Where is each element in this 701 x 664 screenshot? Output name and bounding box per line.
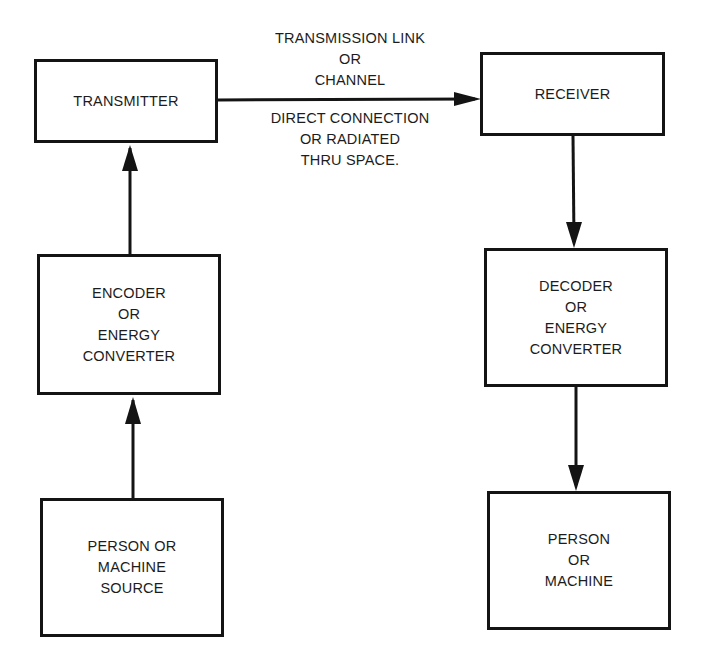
- receiver-block: RECEIVER: [480, 52, 665, 136]
- encoder-label-line-2: OR: [118, 304, 140, 325]
- transmitter-block: TRANSMITTER: [34, 59, 218, 143]
- decoder-label-line-3: ENERGY: [545, 318, 607, 339]
- source-label-line-3: SOURCE: [100, 578, 163, 599]
- link-above-line-1: TRANSMISSION LINK: [250, 28, 450, 49]
- connection-type-label: DIRECT CONNECTION OR RADIATED THRU SPACE…: [240, 108, 460, 171]
- decoder-label-line-4: CONVERTER: [530, 339, 623, 360]
- decoder-label-line-2: OR: [565, 297, 587, 318]
- arrow-encoder-to-transmitter: [122, 145, 138, 254]
- destination-label-line-2: OR: [568, 550, 590, 571]
- link-below-line-1: DIRECT CONNECTION: [240, 108, 460, 129]
- encoder-label-line-3: ENERGY: [98, 325, 160, 346]
- source-block: PERSON OR MACHINE SOURCE: [40, 498, 224, 637]
- arrow-source-to-encoder: [125, 397, 141, 498]
- decoder-block: DECODER OR ENERGY CONVERTER: [484, 248, 668, 387]
- link-below-line-2: OR RADIATED: [240, 129, 460, 150]
- destination-block: PERSON OR MACHINE: [487, 491, 671, 630]
- encoder-label-line-4: CONVERTER: [83, 346, 176, 367]
- encoder-block: ENCODER OR ENERGY CONVERTER: [37, 254, 221, 395]
- destination-label-line-3: MACHINE: [545, 571, 613, 592]
- decoder-label-line-1: DECODER: [539, 276, 613, 297]
- arrow-transmitter-to-receiver: [218, 92, 481, 106]
- source-label-line-2: MACHINE: [98, 557, 166, 578]
- link-below-line-3: THRU SPACE.: [240, 150, 460, 171]
- arrow-receiver-to-decoder: [566, 136, 582, 248]
- source-label-line-1: PERSON OR: [88, 536, 177, 557]
- link-above-line-2: OR: [250, 49, 450, 70]
- receiver-label: RECEIVER: [535, 84, 611, 105]
- arrow-decoder-to-destination: [568, 387, 584, 491]
- destination-label-line-1: PERSON: [548, 529, 610, 550]
- link-above-line-3: CHANNEL: [250, 70, 450, 91]
- transmission-link-label: TRANSMISSION LINK OR CHANNEL: [250, 28, 450, 91]
- encoder-label-line-1: ENCODER: [92, 283, 166, 304]
- transmitter-label: TRANSMITTER: [73, 91, 178, 112]
